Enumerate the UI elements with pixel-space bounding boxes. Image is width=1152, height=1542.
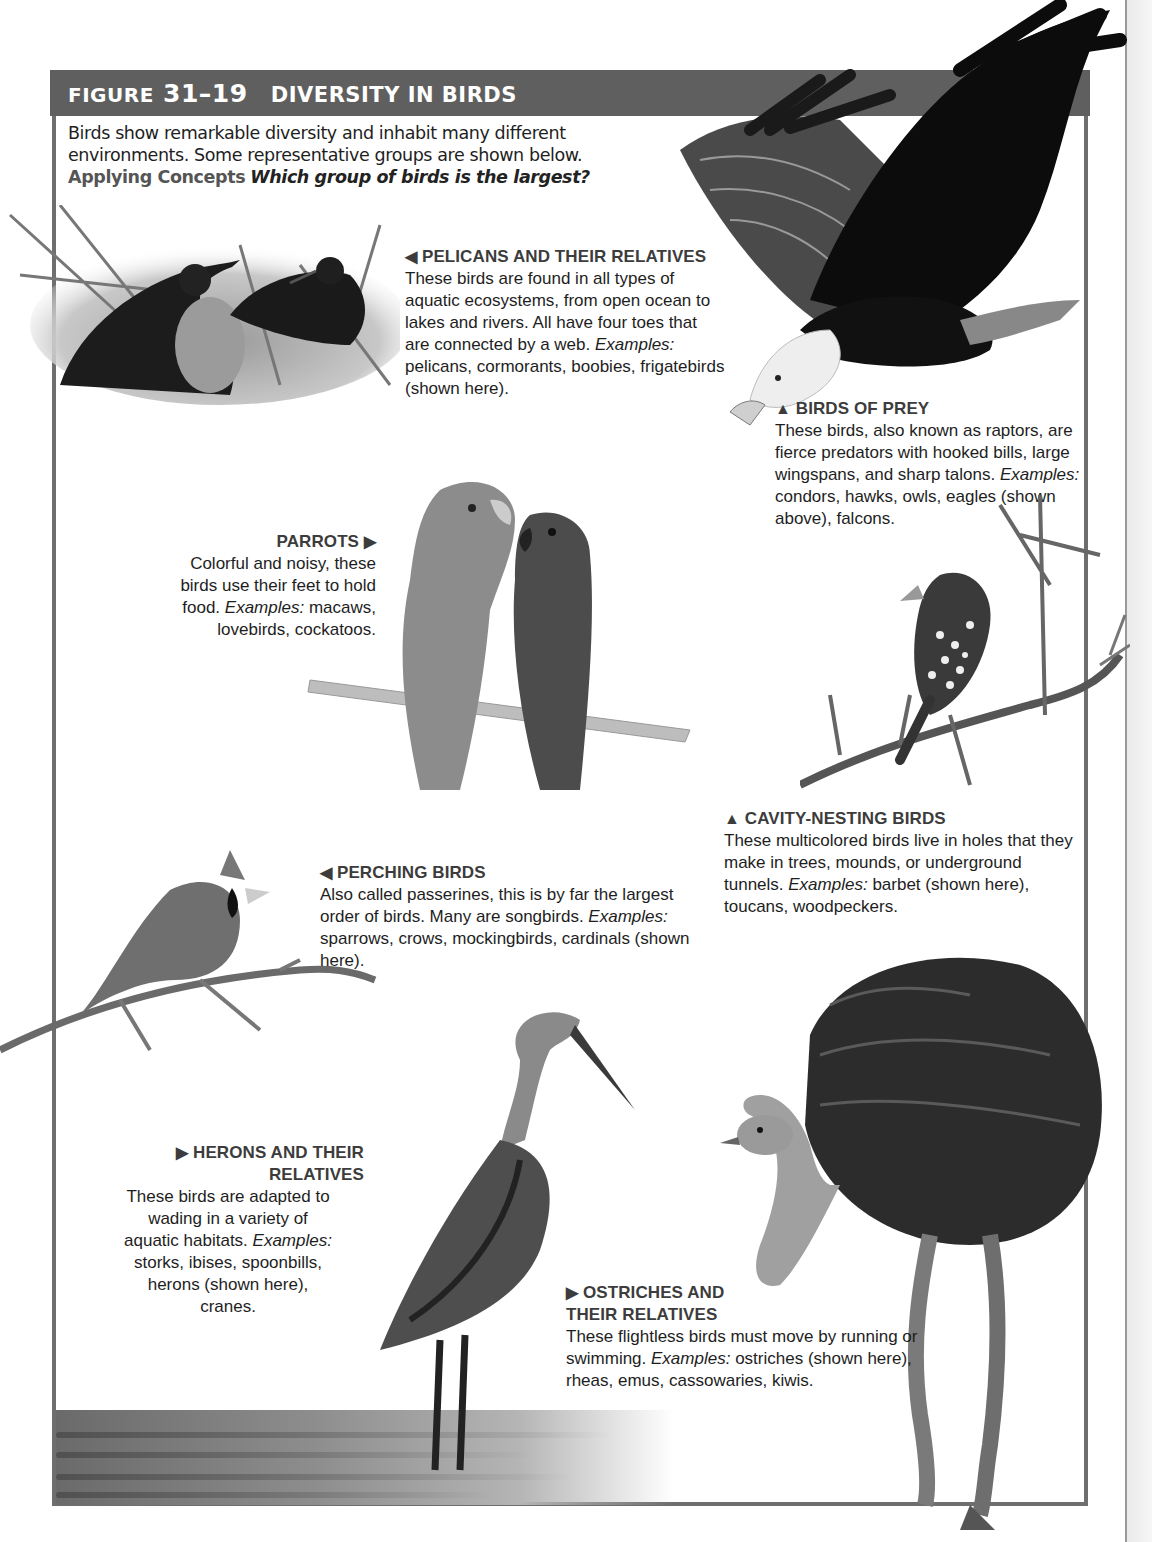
figure-title-text: Diversity in Birds (271, 83, 517, 107)
perching-heading: ◀ PERCHING BIRDS (320, 862, 690, 884)
perching-caption: ◀ PERCHING BIRDS Also called passerines,… (320, 862, 690, 972)
left-arrow-icon: ◀ (405, 248, 417, 265)
eagle-photo (660, 0, 1130, 440)
herons-body: These birds are adapted to wading in a v… (90, 1186, 364, 1318)
herons-heading: ▶ HERONS AND THEIR RELATIVES (90, 1142, 364, 1186)
left-arrow-icon: ◀ (320, 864, 332, 881)
perching-body: Also called passerines, this is by far t… (320, 884, 690, 972)
parrots-photo (300, 470, 700, 810)
up-arrow-icon: ▲ (724, 810, 740, 827)
applying-concepts-label: Applying Concepts (68, 167, 245, 187)
cavity-nesting-heading: ▲ CAVITY-NESTING BIRDS (724, 808, 1084, 830)
ostriches-heading: ▶ OSTRICHES AND THEIR RELATIVES (566, 1282, 766, 1326)
herons-caption: ▶ HERONS AND THEIR RELATIVES These birds… (90, 1142, 364, 1318)
cavity-nesting-body: These multicolored birds live in holes t… (724, 830, 1084, 918)
frigatebirds-photo (0, 205, 400, 405)
birds-of-prey-heading: ▲ BIRDS OF PREY (775, 398, 1095, 420)
figure-label: Figure (68, 83, 154, 107)
right-arrow-icon: ▶ (566, 1284, 578, 1301)
ostrich-photo (720, 945, 1120, 1535)
up-arrow-icon: ▲ (775, 400, 791, 417)
ostriches-caption: ▶ OSTRICHES AND THEIR RELATIVES These fl… (566, 1282, 946, 1392)
figure-title: Figure 31–19 Diversity in Birds (68, 74, 517, 114)
ostriches-body: These flightless birds must move by runn… (566, 1326, 946, 1392)
figure-number: 31–19 (163, 79, 248, 108)
right-arrow-icon: ▶ (176, 1144, 188, 1161)
cavity-nesting-caption: ▲ CAVITY-NESTING BIRDS These multicolore… (724, 808, 1084, 918)
heron-photo (320, 1000, 650, 1500)
applying-concepts-question: Which group of birds is the largest? (250, 167, 590, 187)
barbet-photo (800, 495, 1130, 795)
figure-intro: Birds show remarkable diversity and inha… (68, 122, 688, 188)
intro-text: Birds show remarkable diversity and inha… (68, 123, 582, 165)
page-gutter (1127, 0, 1152, 1542)
